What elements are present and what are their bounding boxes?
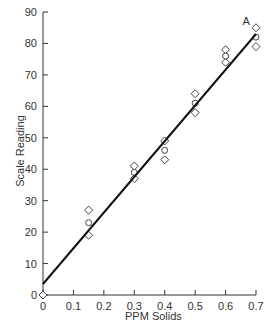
diamond-marker xyxy=(161,156,169,164)
x-tick-label: 0.7 xyxy=(248,300,263,312)
y-tick-label: 0 xyxy=(31,289,37,301)
y-tick-label: 20 xyxy=(25,226,37,238)
x-tick-label: 0.1 xyxy=(66,300,81,312)
circle-marker xyxy=(162,147,168,153)
circle-marker xyxy=(223,53,229,59)
diamond-marker xyxy=(252,24,260,32)
circle-marker xyxy=(86,220,92,226)
y-tick-label: 60 xyxy=(25,100,37,112)
fit-line xyxy=(43,34,256,284)
y-tick-label: 30 xyxy=(25,195,37,207)
x-tick-label: 0.6 xyxy=(218,300,233,312)
x-tick-label: 0.2 xyxy=(96,300,111,312)
annotation-A: A xyxy=(243,15,251,27)
diamond-marker xyxy=(85,206,93,214)
diamond-marker xyxy=(39,291,47,299)
x-axis-label: PPM Solids xyxy=(125,310,182,322)
y-tick-label: 10 xyxy=(25,258,37,270)
diamond-marker xyxy=(191,90,199,98)
x-tick-label: 0 xyxy=(40,300,46,312)
x-tick-label: 0.5 xyxy=(187,300,202,312)
y-tick-label: 80 xyxy=(25,37,37,49)
y-tick-label: 40 xyxy=(25,163,37,175)
y-axis-label: Scale Reading xyxy=(14,111,26,191)
y-tick-label: 50 xyxy=(25,132,37,144)
diamond-marker xyxy=(252,43,260,51)
scatter-plot: 010203040506070809000.10.20.30.40.50.60.… xyxy=(0,0,276,335)
y-tick-label: 70 xyxy=(25,69,37,81)
chart: 010203040506070809000.10.20.30.40.50.60.… xyxy=(0,0,276,335)
y-tick-label: 90 xyxy=(25,6,37,18)
